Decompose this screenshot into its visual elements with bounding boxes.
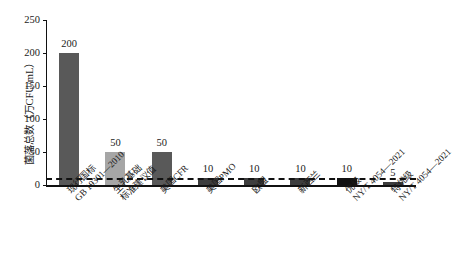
- y-tick-label: 100: [24, 114, 40, 125]
- plot-area: 050100150200250 2005050101010105 现行国标GB …: [46, 20, 416, 185]
- y-tick-mark: [43, 185, 47, 186]
- bar-value-label: 10: [249, 164, 260, 175]
- y-tick-mark: [43, 86, 47, 87]
- y-tick-mark: [43, 119, 47, 120]
- y-axis-line: [46, 20, 47, 185]
- y-tick-label: 0: [35, 180, 40, 191]
- bar-value-label: 10: [203, 164, 214, 175]
- y-tick-label: 250: [24, 15, 40, 26]
- bar: [59, 53, 79, 185]
- y-tick-mark: [43, 152, 47, 153]
- y-tick-mark: [43, 53, 47, 54]
- bar-value-label: 200: [61, 39, 77, 50]
- y-tick-label: 50: [30, 147, 41, 158]
- y-tick-mark: [43, 20, 47, 21]
- bar-value-label: 10: [295, 164, 306, 175]
- bar-value-label: 50: [156, 138, 167, 149]
- bar-value-label: 10: [341, 164, 352, 175]
- y-tick-label: 150: [24, 81, 40, 92]
- y-tick-label: 200: [24, 48, 40, 59]
